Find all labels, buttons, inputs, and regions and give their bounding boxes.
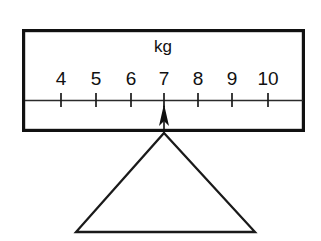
tick-label-8: 8 [193,68,204,89]
tick-label-5: 5 [91,68,102,89]
tick-label-4: 4 [56,68,67,89]
fulcrum-triangle-icon [76,133,255,232]
tick-label-6: 6 [126,68,137,89]
unit-label: kg [154,37,172,56]
weighing-scale-diagram: kg 4 5 6 7 8 9 10 [0,0,321,241]
diagram-canvas: kg 4 5 6 7 8 9 10 [0,0,321,241]
tick-label-7: 7 [159,68,170,89]
tick-label-10: 10 [257,68,278,89]
tick-label-9: 9 [227,68,238,89]
